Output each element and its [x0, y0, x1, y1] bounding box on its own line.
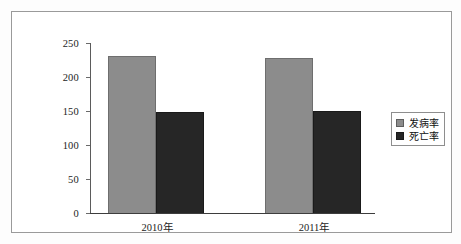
legend-swatch-icon	[396, 132, 404, 140]
y-axis-tick: 0	[86, 213, 90, 214]
plot-area: 250 200 150 100 50 0 2010年	[90, 43, 375, 213]
y-axis-tick: 200	[86, 77, 90, 78]
y-axis-tick: 150	[86, 111, 90, 112]
legend-label: 死亡率	[409, 128, 439, 143]
bar-mortality-2011[interactable]	[313, 111, 361, 213]
bar-incidence-2011[interactable]	[265, 58, 313, 213]
y-axis-tick: 250	[86, 43, 90, 44]
y-axis-tick-label: 100	[63, 140, 79, 151]
y-axis-tick-label: 0	[74, 208, 79, 219]
y-axis-tick: 50	[86, 179, 90, 180]
legend-item-mortality[interactable]: 死亡率	[396, 129, 439, 142]
y-axis-tick: 100	[86, 145, 90, 146]
y-axis-tick-label: 50	[68, 174, 79, 185]
y-axis-line	[90, 43, 91, 213]
legend-swatch-icon	[396, 119, 404, 127]
x-axis-line	[90, 213, 375, 214]
chart-screenshot: 250 200 150 100 50 0 2010年	[0, 0, 461, 244]
y-axis-tick-label: 250	[63, 38, 79, 49]
chart-frame: 250 200 150 100 50 0 2010年	[11, 11, 452, 233]
legend: 发病率 死亡率	[391, 112, 445, 146]
y-axis-tick-label: 150	[63, 106, 79, 117]
x-axis-category-label: 2011年	[299, 219, 330, 234]
x-axis-category-label: 2010年	[142, 219, 173, 234]
y-axis-tick-label: 200	[63, 72, 79, 83]
bar-mortality-2010[interactable]	[156, 112, 204, 213]
bar-incidence-2010[interactable]	[108, 56, 156, 213]
